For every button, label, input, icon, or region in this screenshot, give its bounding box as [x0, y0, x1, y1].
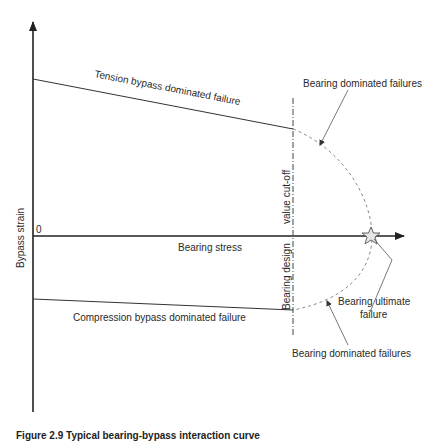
bearing-dominated-top-label: Bearing dominated failures — [303, 78, 422, 89]
tension-line-label: Tension bypass dominated failure — [94, 68, 242, 107]
leader-bearing-dominated-top — [320, 90, 348, 145]
compression-bypass-line — [33, 299, 293, 310]
compression-line-label: Compression bypass dominated failure — [73, 312, 246, 323]
bearing-dominated-bottom-label: Bearing dominated failures — [292, 348, 411, 359]
cutoff-label-lower: Bearing design — [281, 243, 292, 310]
star-icon — [362, 227, 380, 244]
y-axis-label: Bypass strain — [15, 208, 26, 268]
cutoff-label-upper: value cut-off — [281, 169, 292, 224]
bearing-failure-envelope — [293, 129, 372, 310]
origin-label: 0 — [36, 224, 42, 235]
bearing-ultimate-label-2: failure — [360, 309, 388, 320]
figure-caption: Figure 2.9 Typical bearing-bypass intera… — [16, 430, 260, 441]
bearing-ultimate-label-1: Bearing ultimate — [338, 296, 411, 307]
x-axis-label: Bearing stress — [178, 242, 242, 253]
leader-bearing-dominated-bottom — [327, 301, 348, 345]
